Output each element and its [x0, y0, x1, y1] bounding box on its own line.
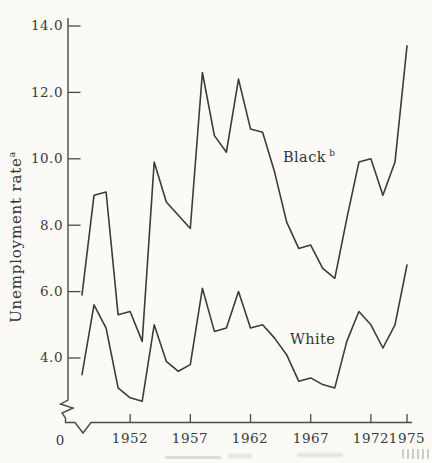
black-series-label-superscript: b	[329, 148, 335, 158]
y-tick-label-4: 4.0	[18, 350, 63, 365]
scan-artifact	[165, 456, 221, 459]
white-series-line	[82, 265, 407, 401]
black-series-line	[82, 46, 407, 342]
axes-with-break-marks	[61, 18, 413, 433]
black-series-label: Black b	[283, 149, 335, 165]
origin-label: 0	[52, 432, 68, 448]
y-axis-title: Unemployment ratea	[7, 151, 25, 323]
x-tick-label-1952: 1952	[108, 430, 152, 446]
scan-artifact	[297, 453, 343, 457]
scan-artifact	[228, 454, 252, 458]
unemployment-rate-chart: 14.0 12.0 10.0 8.0 6.0 4.0 1952 1957 196…	[0, 0, 432, 463]
white-series-label: White	[290, 331, 335, 347]
y-tick-label-12: 12.0	[18, 85, 63, 100]
y-axis-title-superscript: a	[7, 151, 17, 157]
x-tick-label-1975: 1975	[385, 430, 429, 446]
black-series-label-text: Black	[283, 149, 326, 165]
x-tick-label-1967: 1967	[289, 430, 333, 446]
scan-artifact	[402, 449, 430, 459]
plot-canvas	[0, 0, 432, 463]
x-tick-label-1957: 1957	[168, 430, 212, 446]
white-series-label-text: White	[290, 331, 335, 347]
y-tick-label-14: 14.0	[18, 18, 63, 33]
x-tick-label-1962: 1962	[228, 430, 272, 446]
y-axis-title-text: Unemployment rate	[7, 157, 25, 322]
